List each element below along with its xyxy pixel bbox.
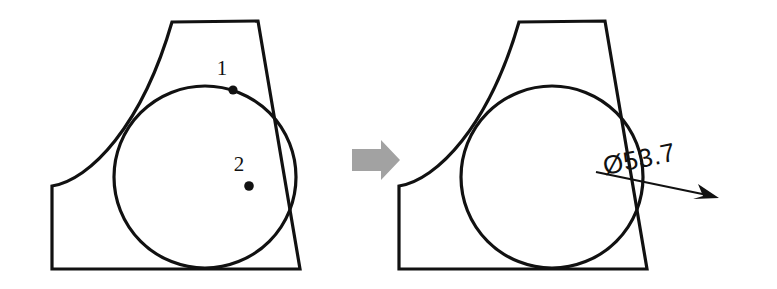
right-panel-group: Ø53.7 xyxy=(399,21,719,269)
left-panel-group: 1 2 xyxy=(52,21,300,269)
marker-label-2: 2 xyxy=(234,152,245,176)
right-part-outline xyxy=(399,21,647,269)
left-part-outline xyxy=(52,21,300,269)
engineering-drawing-canvas: 1 2 Ø53.7 xyxy=(0,0,777,289)
marker-dot-1[interactable] xyxy=(228,85,237,94)
marker-label-1: 1 xyxy=(217,56,228,80)
diameter-arrowhead-icon xyxy=(693,184,719,199)
figure-root: 1 2 Ø53.7 xyxy=(0,0,777,289)
marker-dot-2[interactable] xyxy=(244,181,254,191)
transform-arrow-icon xyxy=(352,140,400,180)
